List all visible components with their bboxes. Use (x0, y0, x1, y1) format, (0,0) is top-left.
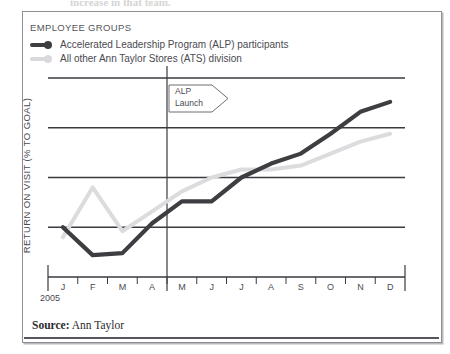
source-label: Source: (32, 319, 69, 331)
legend-title: EMPLOYEE GROUPS (30, 22, 288, 33)
source-value: Ann Taylor (72, 319, 124, 331)
source-note: Source: Ann Taylor (32, 319, 124, 331)
legend-item-ats: All other Ann Taylor Stores (ATS) divisi… (30, 52, 288, 65)
legend-item-ats-label: All other Ann Taylor Stores (ATS) divisi… (60, 53, 242, 64)
legend-item-alp: Accelerated Leadership Program (ALP) par… (30, 38, 288, 51)
chart-legend: EMPLOYEE GROUPS Accelerated Leadership P… (30, 22, 288, 66)
source-divider (24, 337, 439, 339)
line-dot-marker-icon (30, 39, 54, 51)
line-dot-marker-icon (30, 53, 54, 65)
cropped-headline-text: increase in that team. (70, 0, 300, 8)
cropped-headline: increase in that team. (70, 0, 300, 9)
legend-item-alp-label: Accelerated Leadership Program (ALP) par… (60, 39, 288, 50)
